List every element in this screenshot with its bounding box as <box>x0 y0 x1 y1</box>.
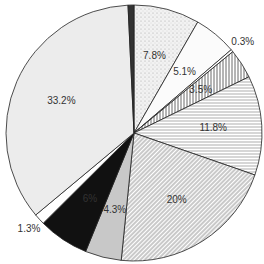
slice-label: 4.3% <box>103 204 126 215</box>
slice-label: 0.3% <box>231 36 254 47</box>
slice-label: 33.2% <box>47 95 75 106</box>
slice-label: 20% <box>167 194 187 205</box>
pie-chart: 7.8%5.1%0.3%3.5%11.8%20%4.3%6%1.3%33.2% <box>0 0 264 264</box>
slice-label: 7.8% <box>143 50 166 61</box>
slice-label: 5.1% <box>173 66 196 77</box>
slice-label: 11.8% <box>199 122 227 133</box>
slice-label: 3.5% <box>189 84 212 95</box>
slice-label: 6% <box>83 193 98 204</box>
slice-label: 1.3% <box>18 223 41 234</box>
